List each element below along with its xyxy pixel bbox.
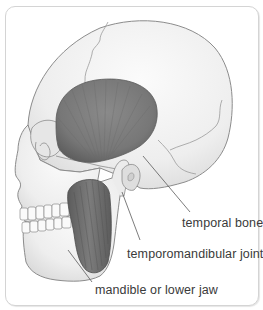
leader-tmj <box>122 192 140 240</box>
label-temporal-bone: temporal bone <box>182 216 263 230</box>
label-mandible: mandible or lower jaw <box>95 283 218 297</box>
label-temporomandibular-joint: temporomandibular joint <box>127 247 263 261</box>
skull-illustration <box>0 0 263 310</box>
